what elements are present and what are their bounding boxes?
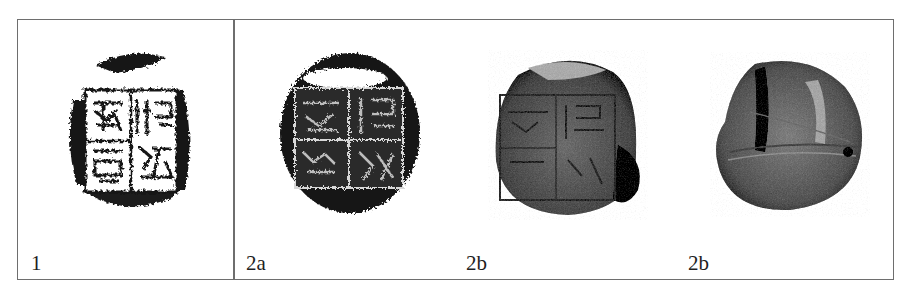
seal-rubbing-1: [55, 45, 205, 220]
seal-rubbing-2a: [273, 48, 428, 218]
panel-label-1: 1: [31, 253, 42, 274]
clay-sealing-front-photo: [488, 50, 648, 220]
panel-divider: [233, 19, 235, 280]
clay-sealing-back-photo: [710, 52, 870, 217]
panel-label-2a: 2a: [246, 253, 266, 274]
panel-label-2b-front: 2b: [466, 253, 487, 274]
panel-label-2b-back: 2b: [688, 253, 709, 274]
